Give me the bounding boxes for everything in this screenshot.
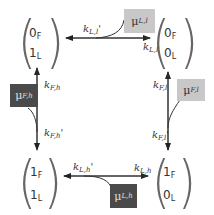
mu-Fh-box: μF,h bbox=[10, 84, 38, 107]
right-paren: ) bbox=[180, 12, 198, 70]
state-entry-L: 1L bbox=[29, 47, 41, 63]
state-entry-F: 1F bbox=[30, 166, 42, 182]
mu-Lh-connector bbox=[84, 176, 112, 190]
state-entry-F: 0F bbox=[164, 27, 176, 43]
right-paren: ) bbox=[44, 152, 62, 210]
mu-Ll-box: μL,l bbox=[124, 9, 155, 33]
right-paren: ) bbox=[46, 12, 64, 70]
mu-Lh-box: μL,h bbox=[110, 184, 137, 208]
state-entry-L: 0L bbox=[163, 189, 175, 205]
state-entry-F: 0F bbox=[29, 27, 41, 43]
mu-Fl-connector bbox=[168, 100, 180, 128]
state-entry-F: 1F bbox=[163, 166, 175, 182]
rate-label-right-up: kF,l bbox=[153, 80, 167, 93]
rate-label-left-down: kF,h' bbox=[44, 128, 63, 141]
rate-label-right-down: kF,l' bbox=[152, 130, 169, 143]
state-entry-L: 1L bbox=[30, 189, 42, 205]
rate-label-top-backward: kL,l' bbox=[83, 24, 101, 37]
state-entry-L: 0L bbox=[164, 47, 176, 63]
rate-label-left-up: kF,h bbox=[44, 80, 61, 93]
four-state-transition-diagram: ( ) 0F 1L ( ) 0F 0L ( ) 1F 1L ( ) 1F 0L … bbox=[0, 0, 214, 215]
mu-Fl-box: μF,l bbox=[177, 79, 205, 101]
mu-Fh-connector bbox=[28, 108, 37, 132]
rate-label-top-forward: kL,l bbox=[143, 42, 158, 55]
rate-label-bottom-backward: kL,h' bbox=[73, 162, 93, 175]
rate-label-bottom-forward: kL,h bbox=[134, 163, 151, 176]
right-paren: ) bbox=[178, 152, 196, 210]
